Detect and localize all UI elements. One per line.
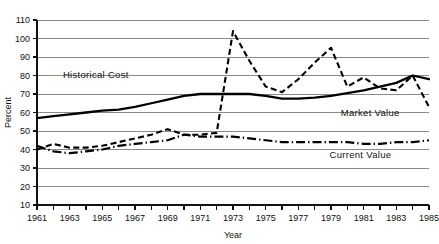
x-axis-title: Year: [224, 230, 242, 240]
y-tick-label-50: 50: [20, 126, 30, 136]
x-tick-label-1979: 1979: [321, 213, 341, 223]
x-tick-label-1973: 1973: [223, 213, 243, 223]
series-label-current-value: Current Value: [329, 149, 391, 160]
y-tick-label-70: 70: [20, 89, 30, 99]
x-tick-label-1981: 1981: [354, 213, 374, 223]
y-tick-label-30: 30: [20, 163, 30, 173]
chart-canvas: 102030405060708090100110 196119631965196…: [0, 0, 439, 244]
x-tick-label-1967: 1967: [125, 213, 145, 223]
x-tick-label-1963: 1963: [60, 213, 80, 223]
y-tick-label-90: 90: [20, 52, 30, 62]
series-label-market-value: Market Value: [341, 107, 400, 118]
x-tick-label-1985: 1985: [419, 213, 439, 223]
y-tick-label-20: 20: [20, 182, 30, 192]
x-tick-label-1983: 1983: [386, 213, 406, 223]
x-tick-label-1961: 1961: [27, 213, 47, 223]
series-label-historical-cost: Historical Cost: [63, 69, 129, 80]
x-tick-label-1971: 1971: [190, 213, 210, 223]
y-tick-label-10: 10: [20, 200, 30, 210]
y-tick-label-80: 80: [20, 71, 30, 81]
y-axis-title: Percent: [3, 96, 13, 128]
y-tick-label-110: 110: [16, 15, 30, 25]
chart-background: [0, 0, 439, 244]
x-tick-label-1965: 1965: [92, 213, 112, 223]
y-tick-label-60: 60: [20, 108, 30, 118]
x-tick-label-1977: 1977: [288, 213, 308, 223]
y-tick-label-40: 40: [20, 145, 30, 155]
line-chart: 102030405060708090100110 196119631965196…: [0, 0, 439, 244]
x-tick-label-1969: 1969: [158, 213, 178, 223]
x-tick-label-1975: 1975: [256, 213, 276, 223]
y-tick-label-100: 100: [15, 34, 30, 44]
